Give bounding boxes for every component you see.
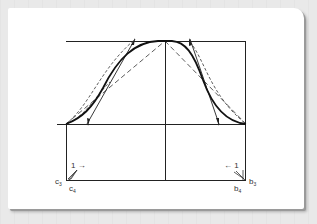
auxiliary-curves xyxy=(66,41,246,124)
left-arrow-label: 1 → xyxy=(71,161,86,170)
main-curve xyxy=(66,41,246,124)
c4-label: c4 xyxy=(69,184,76,194)
left-chord xyxy=(66,41,165,124)
right-arrow-label: ← 1 xyxy=(224,161,239,170)
right-aux-curve xyxy=(190,42,246,124)
right-corner-markers: ← 1 b3 b4 xyxy=(224,161,256,194)
c3-label: c3 xyxy=(55,177,62,187)
chord-lines xyxy=(66,41,246,124)
left-tangent xyxy=(87,39,135,124)
b3-label: b3 xyxy=(249,177,256,187)
left-aux-curve xyxy=(66,41,133,124)
b4-label: b4 xyxy=(234,184,241,194)
left-corner-markers: 1 → c3 c4 xyxy=(55,161,86,194)
right-chord xyxy=(165,41,246,124)
curve-diagram: 1 → c3 c4 ← 1 b3 b4 xyxy=(0,0,317,224)
